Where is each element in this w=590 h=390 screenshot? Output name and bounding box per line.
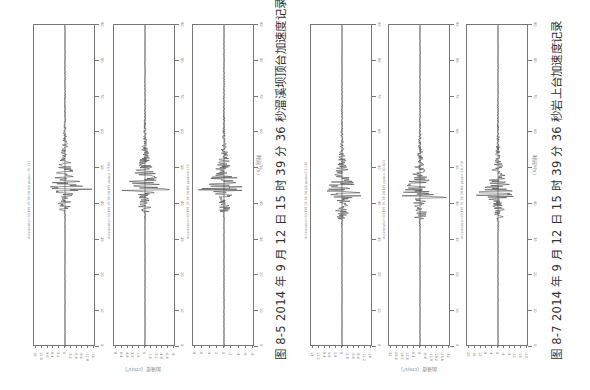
amp-tick <box>419 345 420 348</box>
time-tick <box>254 24 258 25</box>
time-tick-label: 40 <box>100 201 104 205</box>
time-tick <box>528 274 532 275</box>
amp-tick-label: -3.2 <box>154 352 158 359</box>
time-tick <box>528 131 532 132</box>
amp-tick <box>407 345 408 348</box>
amp-tick-label: 16 <box>472 352 476 356</box>
time-tick-label: 30 <box>377 237 381 241</box>
amp-tick-label: 2.8 <box>333 352 337 358</box>
amp-tick-label: 0 <box>221 352 225 354</box>
waveform-trace <box>389 25 451 347</box>
time-axis-label: 时间（s） <box>256 155 263 178</box>
acceleration-axis-label: 加速度（cm/s²） <box>122 367 161 374</box>
time-tick-label: 70 <box>180 94 184 98</box>
amp-tick-label: -8 <box>507 352 511 356</box>
time-tick-label: 60 <box>259 129 263 133</box>
amp-tick-label: -1.6 <box>148 352 152 359</box>
time-tick-label: 60 <box>455 129 459 133</box>
time-axis-ticks: 0102030405060708090 <box>450 24 460 346</box>
amp-tick <box>425 345 426 348</box>
time-tick <box>372 310 376 311</box>
time-tick <box>372 96 376 97</box>
time-tick <box>528 310 532 311</box>
waveform-trace <box>193 25 255 347</box>
amp-tick <box>520 345 521 348</box>
amp-tick <box>223 345 224 348</box>
amp-tick <box>35 345 36 348</box>
amp-tick <box>64 345 65 348</box>
amp-tick <box>485 345 486 348</box>
amp-tick <box>324 345 325 348</box>
time-tick-label: 70 <box>377 94 381 98</box>
amp-tick-label: -2 <box>228 352 232 356</box>
time-tick-label: 10 <box>180 308 184 312</box>
time-tick <box>95 239 99 240</box>
amp-tick-label: -32 <box>446 352 450 358</box>
amp-tick <box>81 345 82 348</box>
amp-tick-label: 1.6 <box>136 352 140 358</box>
time-tick-label: 70 <box>455 94 459 98</box>
time-tick <box>254 274 258 275</box>
time-tick <box>175 310 179 311</box>
time-tick-label: 10 <box>377 308 381 312</box>
time-tick-label: 60 <box>533 129 537 133</box>
amp-tick-label: -4 <box>236 352 240 356</box>
time-tick-label: 70 <box>100 94 104 98</box>
time-tick-label: 20 <box>455 272 459 276</box>
amp-tick <box>448 345 449 348</box>
waveform-panel-ud <box>33 24 95 346</box>
time-tick-label: 0 <box>455 344 459 346</box>
time-tick-label: 30 <box>455 237 459 241</box>
amp-tick-label: 20 <box>466 352 470 356</box>
time-axis-ticks: 0102030405060708090 <box>528 24 538 346</box>
amp-tick <box>370 345 371 348</box>
amp-tick-label: 0 <box>142 352 146 354</box>
amp-tick-label: 16 <box>33 352 37 356</box>
time-tick <box>372 24 376 25</box>
amp-tick <box>47 345 48 348</box>
time-tick-label: 40 <box>377 201 381 205</box>
amp-tick-label: 2 <box>214 352 218 354</box>
time-tick <box>95 24 99 25</box>
amp-tick <box>390 345 391 348</box>
amp-tick-label: -5.6 <box>351 352 355 359</box>
amp-tick-label: -8 <box>250 352 254 356</box>
amp-tick-label: 12.8 <box>405 352 409 360</box>
amplitude-axis-ticks: -8-6-4-202468 <box>192 348 254 362</box>
time-axis-label: 时间（s） <box>532 155 539 178</box>
amp-tick-label: 8 <box>113 352 117 354</box>
amplitude-axis-ticks: -8-6.4-4.8-3.2-1.601.63.24.86.48 <box>113 348 175 362</box>
amp-tick-label: 12 <box>478 352 482 356</box>
amplitude-axis-ticks: -32-25.6-19.2-12.8-6.406.412.819.225.632 <box>388 348 450 362</box>
time-tick-label: 80 <box>100 58 104 62</box>
amp-tick-label: 6.4 <box>411 352 415 358</box>
amp-tick-label: -12.8 <box>429 352 433 361</box>
time-tick <box>254 96 258 97</box>
station-label: Acceleration 03 EW 15:39:36 EW peak=-7.5… <box>107 162 111 239</box>
time-tick <box>175 274 179 275</box>
time-tick <box>372 239 376 240</box>
time-tick <box>528 24 532 25</box>
amp-tick <box>431 345 432 348</box>
time-tick-label: 60 <box>100 129 104 133</box>
amp-tick <box>238 345 239 348</box>
time-tick-label: 40 <box>533 201 537 205</box>
amp-tick <box>341 345 342 348</box>
time-tick-label: 10 <box>100 308 104 312</box>
amp-tick <box>161 345 162 348</box>
time-tick <box>450 203 454 204</box>
amp-tick-label: -6.4 <box>74 352 78 359</box>
station-label: Acceleration 03 EW 15:39:36 NS peak=-18.… <box>460 161 464 239</box>
amp-tick-label: 0 <box>495 352 499 354</box>
amp-tick-label: -8 <box>171 352 175 356</box>
time-tick-label: 60 <box>180 129 184 133</box>
time-tick <box>528 239 532 240</box>
amplitude-axis-ticks: -20-16-12-8-4048121620 <box>466 348 528 362</box>
amp-tick <box>514 345 515 348</box>
amp-tick-label: 4 <box>207 352 211 354</box>
time-tick <box>254 203 258 204</box>
time-tick-label: 80 <box>377 58 381 62</box>
time-tick <box>95 60 99 61</box>
time-tick-label: 80 <box>455 58 459 62</box>
amp-tick-label: 4 <box>489 352 493 354</box>
